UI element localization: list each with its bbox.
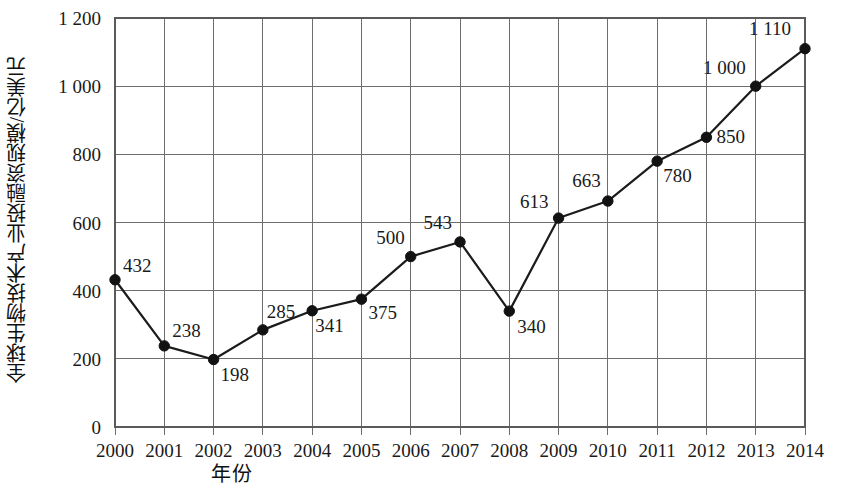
data-point-label: 500 bbox=[376, 227, 405, 248]
data-point-marker bbox=[110, 275, 120, 285]
line-chart-plot: 02004006008001 0001 200 2000200120022003… bbox=[0, 0, 843, 493]
data-point-label: 613 bbox=[520, 191, 549, 212]
data-point-marker bbox=[800, 43, 810, 53]
data-point-marker bbox=[356, 294, 366, 304]
y-axis-tick-label: 1 000 bbox=[58, 76, 101, 97]
y-axis-tick-label: 0 bbox=[92, 417, 102, 438]
data-point-label: 238 bbox=[172, 320, 201, 341]
y-axis-tick-labels: 02004006008001 0001 200 bbox=[58, 8, 101, 438]
data-point-label: 198 bbox=[221, 364, 250, 385]
data-point-label: 1 110 bbox=[749, 18, 791, 39]
data-point-marker bbox=[208, 354, 218, 364]
data-point-marker bbox=[652, 156, 662, 166]
data-point-marker bbox=[258, 325, 268, 335]
data-point-marker bbox=[701, 132, 711, 142]
y-axis-tick-label: 200 bbox=[73, 349, 102, 370]
grid-lines bbox=[115, 18, 805, 435]
data-point-marker bbox=[751, 81, 761, 91]
data-point-label: 375 bbox=[368, 302, 397, 323]
x-axis-title-text: 年份 bbox=[211, 458, 253, 487]
data-point-label: 850 bbox=[716, 126, 745, 147]
data-point-label: 1 000 bbox=[703, 57, 746, 78]
data-point-labels: 4322381982853413755005433406136637808501… bbox=[123, 18, 791, 385]
data-point-marker bbox=[406, 251, 416, 261]
data-point-label: 432 bbox=[123, 255, 152, 276]
data-point-label: 543 bbox=[424, 212, 453, 233]
data-point-label: 780 bbox=[663, 165, 692, 186]
data-point-marker bbox=[603, 196, 613, 206]
y-axis-tick-label: 400 bbox=[73, 281, 102, 302]
data-point-label: 340 bbox=[517, 316, 546, 337]
data-point-marker bbox=[553, 213, 563, 223]
x-axis-title: 年份 bbox=[0, 458, 843, 487]
data-point-label: 341 bbox=[315, 315, 344, 336]
data-point-marker bbox=[504, 306, 514, 316]
data-point-label: 663 bbox=[572, 170, 601, 191]
y-axis-tick-label: 600 bbox=[73, 213, 102, 234]
data-point-label: 285 bbox=[267, 301, 296, 322]
data-point-marker bbox=[159, 341, 169, 351]
data-point-marker bbox=[455, 237, 465, 247]
chart-page: 全球生物技术产业投融资规模/亿美元 02004006008001 0001 20… bbox=[0, 0, 843, 493]
y-axis-tick-label: 1 200 bbox=[58, 8, 101, 29]
y-axis-tick-label: 800 bbox=[73, 144, 102, 165]
